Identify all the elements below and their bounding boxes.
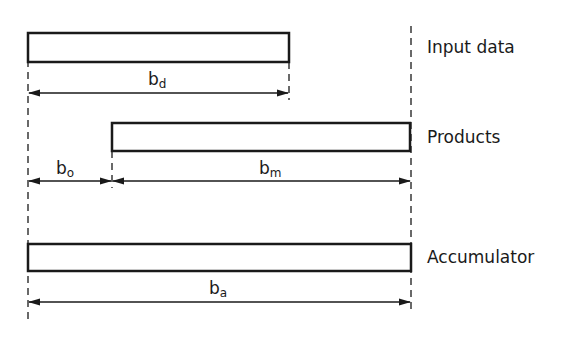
- input-data-label: Input data: [427, 37, 515, 57]
- accumulator-label: Accumulator: [427, 247, 534, 267]
- bd-label: bd: [148, 69, 166, 91]
- products-label: Products: [427, 127, 501, 147]
- bo-label: bo: [56, 158, 74, 180]
- bm-label: bm: [259, 158, 282, 180]
- products-bar: [112, 123, 410, 151]
- input-data-bar: [28, 33, 289, 62]
- accumulator-bar: [28, 244, 411, 271]
- ba-label: ba: [209, 278, 227, 300]
- word-length-diagram: Input data bd Products bo bm Accumulator…: [0, 0, 571, 338]
